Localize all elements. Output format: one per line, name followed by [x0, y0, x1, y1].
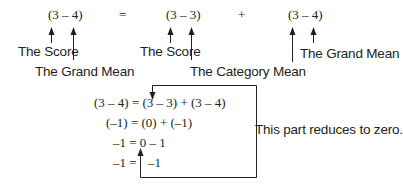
- arrowhead-icon: [49, 27, 55, 35]
- arrowhead-icon: [311, 27, 317, 35]
- arrowhead-icon: [71, 27, 77, 35]
- arrow-down-icon: [150, 92, 156, 100]
- arrow-up-icon: [138, 148, 144, 156]
- reduction-bracket: [141, 86, 257, 178]
- arrowhead-icon: [168, 27, 174, 35]
- arrowhead-icon: [290, 27, 296, 35]
- arrowhead-icon: [189, 27, 195, 35]
